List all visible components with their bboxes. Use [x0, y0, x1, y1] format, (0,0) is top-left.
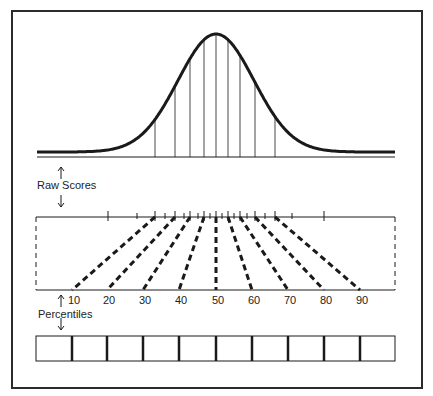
- percentile-number: 80: [320, 294, 332, 306]
- percentile-numbers: 102030405060708090: [68, 294, 368, 306]
- percentile-number: 70: [284, 294, 296, 306]
- raw-scores-label: Raw Scores: [37, 179, 97, 191]
- percentile-number: 50: [212, 294, 224, 306]
- percentile-number: 30: [139, 294, 151, 306]
- mapping-dashed-line: [275, 217, 360, 290]
- percentile-number: 20: [103, 294, 115, 306]
- percentiles-label: Percentiles: [38, 308, 93, 320]
- mapping-dashed-line: [72, 217, 155, 290]
- percentile-number: 90: [356, 294, 368, 306]
- percentile-number: 40: [175, 294, 187, 306]
- percentile-mapping-lines: [36, 217, 395, 290]
- normal-curve: [37, 34, 395, 157]
- percentile-number: 10: [68, 294, 80, 306]
- normal-curve-percentile-diagram: Raw Scores 102030405060708090 Percentile…: [0, 0, 433, 396]
- percentile-number: 60: [248, 294, 260, 306]
- percentile-bands: [36, 336, 395, 361]
